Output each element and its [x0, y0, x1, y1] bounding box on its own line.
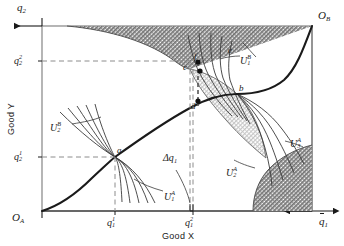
delta-q1-label: Δq1: [163, 153, 177, 164]
edgeworth-box-figure: OA OB q2 q1 Good X Good Y q11 q21 q22 q1…: [0, 0, 344, 246]
x-tick-label-1: q11: [107, 216, 115, 228]
point-label-e: e: [228, 46, 232, 55]
x-axis-title: Good X: [162, 231, 194, 241]
curve-u1a: [60, 104, 155, 203]
x-axis-endpoint-label: q1: [319, 216, 328, 229]
y-axis-endpoint-label: q2: [17, 2, 26, 15]
y-tick-label-1: q12: [14, 150, 22, 162]
point-label-f: f: [194, 52, 197, 61]
point-label-d: d: [191, 102, 196, 111]
dot-e-lower: [197, 68, 202, 73]
curve-label-u2a: UA2: [226, 166, 237, 178]
curve-label-u1a: UA1: [164, 190, 175, 202]
point-label-c: c: [183, 63, 187, 72]
x-tick-label-2: q21: [185, 216, 193, 228]
y-tick-label-2: q22: [14, 54, 22, 66]
point-label-b: b: [239, 84, 244, 93]
point-label-a: a: [117, 146, 122, 155]
origin-a-label: OA: [12, 212, 24, 225]
curve-label-u2b: UB2: [50, 121, 61, 133]
y-axis-title: Good Y: [6, 103, 16, 135]
curve-label-u3a: UA3: [290, 137, 301, 149]
curve-label-u1b: UB1: [240, 54, 251, 66]
origin-b-label: OB: [318, 10, 330, 23]
dot-d: [195, 98, 200, 103]
